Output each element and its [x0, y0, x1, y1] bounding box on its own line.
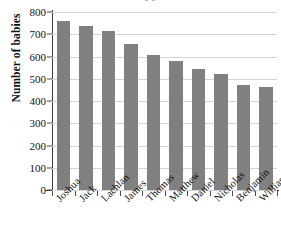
y-axis-tick-mark [47, 101, 52, 102]
bar[interactable] [124, 44, 138, 190]
chart-title-clipped: • • [60, 0, 240, 2]
y-axis-tick-label: 700 [16, 28, 46, 40]
bar[interactable] [214, 74, 228, 190]
y-axis-tick-mark [47, 190, 52, 191]
y-axis-tick-labels: 8007006005004003002001000 [16, 12, 46, 190]
y-axis-tick-mark [47, 78, 52, 79]
bar[interactable] [102, 31, 116, 190]
y-axis-tick-label: 800 [16, 6, 46, 18]
y-axis-tick-mark [47, 34, 52, 35]
y-axis-tick-label: 200 [16, 140, 46, 152]
y-axis-tick-label: 600 [16, 51, 46, 63]
y-axis-tick-label: 400 [16, 95, 46, 107]
y-axis-tick-mark [47, 145, 52, 146]
y-axis-tick-mark [47, 12, 52, 13]
y-axis-tick-mark [47, 123, 52, 124]
bars-group [52, 12, 277, 190]
bar[interactable] [79, 26, 93, 190]
y-axis-tick-label: 100 [16, 162, 46, 174]
y-axis-tick-mark [47, 56, 52, 57]
y-axis-tick-label: 500 [16, 73, 46, 85]
y-axis-tick-mark [47, 167, 52, 168]
bar-chart: • • Number of babies 8007006005004003002… [0, 0, 281, 252]
bar[interactable] [169, 61, 183, 190]
plot-area [52, 12, 277, 190]
bar[interactable] [57, 21, 71, 190]
y-axis-tick-label: 300 [16, 117, 46, 129]
x-axis-tick-labels: JoshuaJackLachlanJamesThomasMatthewDanie… [52, 196, 281, 252]
bar[interactable] [147, 55, 161, 190]
y-axis-tick-label: 0 [16, 184, 46, 196]
